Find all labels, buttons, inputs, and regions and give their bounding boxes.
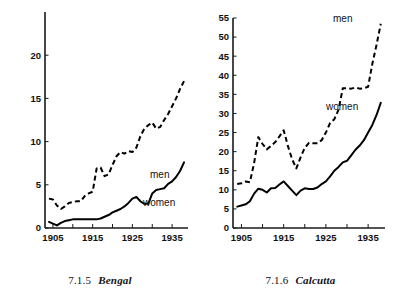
chart-bengal: 051015201905191519251935menwomen xyxy=(0,0,200,262)
figure-calcutta: 05101520253035404550551905191519251935me… xyxy=(200,0,401,300)
y-tick-label: 20 xyxy=(30,50,41,61)
calcutta-plot-svg: 05101520253035404550551905191519251935me… xyxy=(200,0,401,262)
series-label-men: men xyxy=(150,169,169,180)
x-tick-label: 1925 xyxy=(315,232,337,243)
chart-calcutta: 05101520253035404550551905191519251935me… xyxy=(200,0,401,262)
y-tick-label: 5 xyxy=(224,203,230,214)
bengal-plot-svg: 051015201905191519251935menwomen xyxy=(0,0,200,262)
y-tick-label: 45 xyxy=(218,51,229,62)
figure-bengal: 051015201905191519251935menwomen 7.1.5Be… xyxy=(0,0,200,300)
y-tick-label: 15 xyxy=(218,165,229,176)
series-line-women xyxy=(237,103,381,207)
y-tick-label: 0 xyxy=(224,222,229,233)
y-tick-label: 30 xyxy=(218,108,229,119)
series-line-men xyxy=(49,81,184,209)
x-tick-label: 1935 xyxy=(162,232,184,243)
caption-calcutta-number: 7.1.6 xyxy=(265,274,288,286)
x-tick-label: 1925 xyxy=(122,232,144,243)
caption-bengal-number: 7.1.5 xyxy=(68,274,91,286)
y-tick-label: 50 xyxy=(218,31,229,42)
series-label-women: women xyxy=(325,101,358,112)
y-tick-label: 5 xyxy=(36,179,42,190)
x-tick-label: 1905 xyxy=(231,232,253,243)
y-tick-label: 40 xyxy=(218,70,229,81)
y-tick-label: 10 xyxy=(30,136,41,147)
y-tick-label: 15 xyxy=(30,93,41,104)
y-tick-label: 25 xyxy=(218,127,229,138)
series-line-men xyxy=(237,24,381,184)
y-tick-label: 10 xyxy=(218,184,229,195)
figure-pair: 051015201905191519251935menwomen 7.1.5Be… xyxy=(0,0,401,300)
x-tick-label: 1935 xyxy=(358,232,380,243)
caption-bengal: 7.1.5Bengal xyxy=(0,274,200,286)
series-label-men: men xyxy=(333,13,352,24)
caption-calcutta: 7.1.6Calcutta xyxy=(200,274,401,286)
caption-calcutta-name: Calcutta xyxy=(295,274,335,286)
x-tick-label: 1905 xyxy=(42,232,64,243)
y-tick-label: 20 xyxy=(218,146,229,157)
series-label-women: women xyxy=(142,197,175,208)
caption-bengal-name: Bengal xyxy=(98,274,132,286)
y-tick-label: 55 xyxy=(218,12,229,23)
y-tick-label: 0 xyxy=(36,222,41,233)
x-tick-label: 1915 xyxy=(273,232,295,243)
y-tick-label: 35 xyxy=(218,89,229,100)
x-tick-label: 1915 xyxy=(82,232,104,243)
